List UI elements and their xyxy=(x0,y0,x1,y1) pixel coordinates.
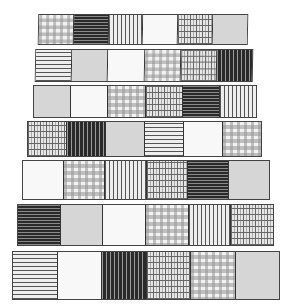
swatch-dark-h xyxy=(74,15,109,44)
swatch-grid xyxy=(147,252,192,299)
swatch-hlines xyxy=(13,252,58,299)
swatch-white xyxy=(23,161,64,199)
swatch-gingham xyxy=(39,15,74,44)
swatch-gingham xyxy=(144,50,181,81)
swatch-vlines xyxy=(105,161,146,199)
swatch-dark-h xyxy=(183,86,220,117)
swatch-white xyxy=(184,122,223,156)
swatch-gray xyxy=(72,50,109,81)
swatch-gingham xyxy=(191,252,236,299)
swatch-gray xyxy=(229,161,269,199)
swatch-gray xyxy=(213,15,247,44)
swatch-vlines xyxy=(189,205,232,245)
swatch-strip-2 xyxy=(35,49,254,82)
swatch-dark-v xyxy=(217,50,253,81)
swatch-dark-h xyxy=(18,205,61,245)
swatch-gray xyxy=(34,86,71,117)
swatch-strip-3 xyxy=(33,85,257,118)
swatch-gray xyxy=(61,205,104,245)
swatch-dark-v xyxy=(67,122,106,156)
swatch-dark-v xyxy=(102,252,147,299)
swatch-grid xyxy=(28,122,67,156)
swatch-gingham xyxy=(223,122,261,156)
swatch-gingham xyxy=(64,161,105,199)
swatch-strip-4 xyxy=(27,121,262,157)
swatch-grid xyxy=(147,161,188,199)
swatch-hlines xyxy=(145,122,184,156)
swatch-grid xyxy=(178,15,213,44)
swatch-gray xyxy=(236,252,280,299)
swatch-gingham xyxy=(146,205,189,245)
swatch-vlines xyxy=(108,15,143,44)
swatch-gray xyxy=(106,122,145,156)
swatch-white xyxy=(143,15,178,44)
swatch-white xyxy=(103,205,146,245)
swatch-strip-7 xyxy=(12,251,280,300)
swatch-gingham xyxy=(108,86,145,117)
swatch-vlines xyxy=(220,86,256,117)
swatch-white xyxy=(108,50,145,81)
swatch-strip-5 xyxy=(22,160,270,200)
swatch-white xyxy=(58,252,103,299)
swatch-grid xyxy=(231,205,273,245)
swatch-dark-h xyxy=(188,161,229,199)
swatch-hlines xyxy=(36,50,73,81)
swatch-strip-6 xyxy=(17,204,274,246)
swatch-white xyxy=(71,86,108,117)
swatch-grid xyxy=(180,50,217,81)
swatch-grid xyxy=(146,86,183,117)
swatch-strip-1 xyxy=(38,14,249,45)
